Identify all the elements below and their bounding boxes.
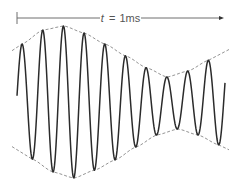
lower-envelope: [12, 129, 229, 178]
duration-value: 1ms: [119, 12, 140, 24]
upper-envelope: [12, 26, 229, 77]
time-span-arrow: t = 1ms: [17, 12, 224, 24]
duration-label: t = 1ms: [101, 12, 141, 24]
duration-equals: =: [109, 12, 115, 24]
modulated-wave: [17, 26, 225, 178]
arrow-head-icon: [219, 16, 224, 20]
duration-variable: t: [101, 12, 105, 24]
waveform-diagram: t = 1ms: [0, 0, 237, 192]
